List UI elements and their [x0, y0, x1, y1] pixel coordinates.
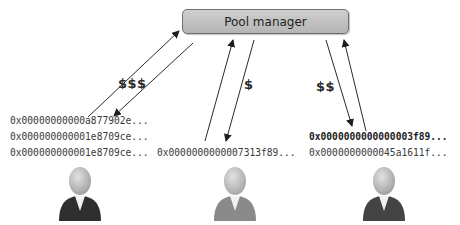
share-arrow-middle-up: [205, 40, 233, 141]
miner-right-person-icon: [359, 163, 409, 223]
hash-left-3: 0x000000000001e8709ce...: [10, 145, 149, 160]
share-arrow-right-up: [344, 40, 366, 131]
hash-left-2: 0x000000000001e8709ce...: [10, 129, 149, 144]
payout-label-right: $$: [316, 79, 335, 94]
hash-left-1: 0x00000000000a877902e...: [10, 113, 149, 128]
hash-middle-1: 0x0000000000007313f89...: [157, 145, 296, 160]
hash-right-2: 0x0000000000045a1611f...: [309, 145, 448, 160]
payout-label-middle: $: [244, 77, 254, 92]
hash-right-1: 0x0000000000000003f89...: [309, 129, 448, 144]
pool-manager-label: Pool manager: [224, 15, 307, 29]
share-arrow-left-up: [88, 31, 179, 117]
pool-manager-box: Pool manager: [182, 9, 349, 34]
miner-left-person-icon: [55, 163, 105, 223]
pool-mining-diagram: Pool manager $$$ $ $$ 0x00000000000a8779…: [0, 0, 460, 225]
miner-middle-person-icon: [210, 163, 260, 223]
payout-label-left: $$$: [118, 76, 147, 91]
